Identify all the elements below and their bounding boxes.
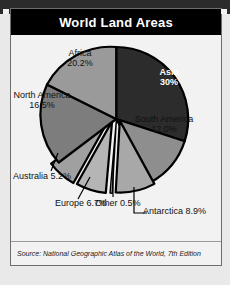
source-bar: Source: National Geographic Atlas of the…: [11, 241, 221, 265]
pie-label-europe: Europe 6.7%: [55, 198, 99, 208]
chart-title-bar: World Land Areas: [11, 9, 221, 35]
pie-label-asia-name: Asia: [159, 67, 178, 77]
pie-label-north-america: North America 16.5%: [11, 90, 73, 110]
pie-label-africa: Africa 20.2%: [52, 48, 108, 68]
pie-plot-area: Asia 30% South America 12.0% North Ameri…: [11, 35, 221, 241]
chart-figure: World Land Areas: [0, 0, 230, 285]
chart-panel: World Land Areas: [10, 8, 222, 266]
pie-label-other-value: 0.5%: [120, 198, 141, 208]
pie-label-antarctica: Antarctica 8.9%: [143, 206, 203, 216]
pie-label-africa-value: 20.2%: [52, 58, 108, 68]
pie-label-australia-value: 5.2%: [51, 171, 72, 181]
pie-label-antarctica-name: Antarctica: [143, 206, 183, 216]
pie-label-australia-name: Australia: [13, 171, 48, 181]
corner-nub-right: [221, 9, 227, 14]
pie-label-north-america-name: North America: [13, 90, 70, 100]
pie-label-africa-name: Africa: [68, 48, 91, 58]
pie-label-europe-value: 6.7%: [87, 198, 108, 208]
pie-label-australia: Australia 5.2%: [13, 171, 63, 181]
pie-label-north-america-value: 16.5%: [11, 100, 73, 110]
pie-label-antarctica-value: 8.9%: [186, 206, 207, 216]
pie-label-europe-name: Europe: [55, 198, 84, 208]
page-title: World Land Areas: [59, 15, 173, 30]
source-note: Source: National Geographic Atlas of the…: [11, 250, 201, 257]
pie-label-asia: Asia 30%: [141, 67, 197, 87]
pie-label-asia-value: 30%: [141, 77, 197, 87]
pie-label-south-america-name: South America: [135, 114, 194, 124]
pie-label-south-america-value: 12.0%: [132, 124, 196, 134]
pie-label-south-america: South America 12.0%: [132, 114, 196, 134]
corner-nub-left: [3, 9, 9, 14]
